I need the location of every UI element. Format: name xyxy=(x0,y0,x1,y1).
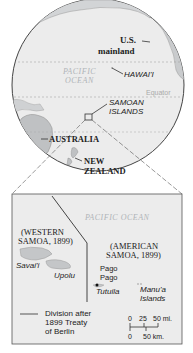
label-australia: AUSTRALIA xyxy=(49,135,99,144)
label-american-samoa-line2: SAMOA, 1899) xyxy=(106,251,161,260)
label-us-mainland-line1: U.S. xyxy=(120,36,136,45)
scale-km-0: 0 xyxy=(128,333,132,340)
label-hawaii: HAWAI'I xyxy=(124,71,154,79)
label-samoan-line2: ISLANDS xyxy=(109,108,143,116)
label-savaii: Savai'i xyxy=(16,262,39,270)
label-western-samoa-line2: SAMOA, 1899) xyxy=(18,237,73,246)
label-us-mainland-line2: mainland xyxy=(98,47,135,56)
inset-label-pacific-ocean: PACIFIC OCEAN xyxy=(85,214,149,222)
label-equator: Equator xyxy=(146,89,171,96)
legend-line2: 1899 Treaty xyxy=(45,319,87,327)
scale-mi-0: 0 xyxy=(128,315,132,322)
label-pacific-line2: OCEAN xyxy=(65,77,94,85)
scale-mi-25: 25 xyxy=(139,315,147,322)
label-manua-line1: Manu'a xyxy=(140,286,166,294)
label-samoan-line1: SAMOAN xyxy=(109,99,144,107)
label-nz-line1: NEW xyxy=(84,157,104,166)
legend-line3: of Berlin xyxy=(45,328,74,336)
scale-km-50: 50 km. xyxy=(143,333,164,340)
legend-line1: Division after xyxy=(45,310,91,318)
label-manua-line2: Islands xyxy=(140,295,165,303)
label-pago-line2: Pago xyxy=(100,274,118,282)
globe xyxy=(0,0,190,171)
label-pacific-line1: PACIFIC xyxy=(63,68,96,76)
label-nz-line2: ZEALAND xyxy=(84,167,126,176)
label-upolu: Upolu xyxy=(54,272,75,280)
scale-mi-50: 50 mi. xyxy=(153,315,172,322)
label-tutuila: Tutuila xyxy=(96,288,119,296)
label-pago-line1: Pago xyxy=(100,265,118,273)
